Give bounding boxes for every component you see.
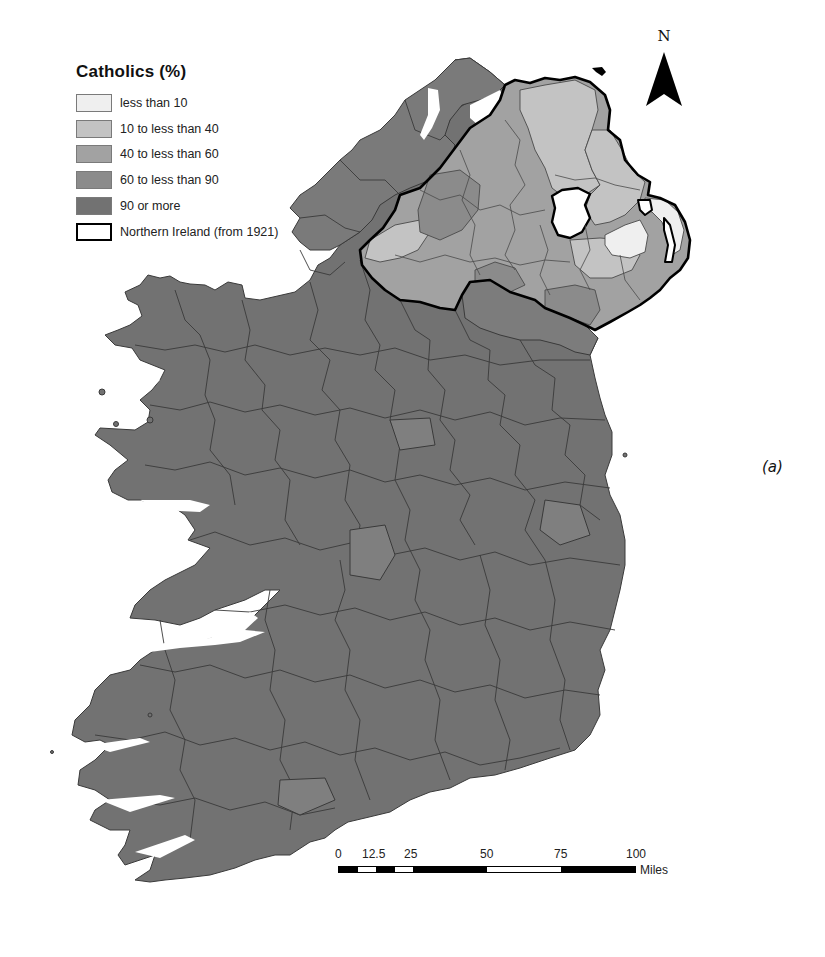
north-arrow-icon xyxy=(644,50,684,110)
legend-title: Catholics (%) xyxy=(76,62,296,82)
legend-label: 60 to less than 90 xyxy=(120,173,219,187)
island xyxy=(114,422,119,427)
legend-label: 90 or more xyxy=(120,199,180,213)
island xyxy=(51,751,54,754)
north-arrow: N xyxy=(644,28,684,114)
legend-item-less-than-10: less than 10 xyxy=(76,90,296,116)
scale-tick-12-5: 12.5 xyxy=(362,847,385,861)
scale-tick-75: 75 xyxy=(554,847,567,861)
rathlin-island xyxy=(592,67,606,76)
scale-tick-50: 50 xyxy=(480,847,493,861)
legend-label: 10 to less than 40 xyxy=(120,122,219,136)
island xyxy=(623,453,627,457)
legend-swatch xyxy=(76,120,112,138)
legend-item-60-to-90: 60 to less than 90 xyxy=(76,167,296,193)
legend-item-40-to-60: 40 to less than 60 xyxy=(76,142,296,168)
legend-swatch xyxy=(76,197,112,215)
scale-bar-track xyxy=(338,866,636,873)
legend-swatch-outline xyxy=(76,223,112,241)
legend-item-90-or-more: 90 or more xyxy=(76,193,296,219)
legend-swatch xyxy=(76,171,112,189)
island xyxy=(99,389,105,395)
scale-unit: Miles xyxy=(640,863,668,877)
panel-label-text: (a) xyxy=(762,458,783,476)
panel-label: (a) xyxy=(762,458,783,476)
island xyxy=(148,713,152,717)
clew-bay xyxy=(105,375,160,390)
map-legend: Catholics (%) less than 10 10 to less th… xyxy=(76,62,296,245)
legend-item-northern-ireland: Northern Ireland (from 1921) xyxy=(76,219,296,245)
scale-tick-100: 100 xyxy=(626,847,646,861)
island xyxy=(147,417,153,423)
legend-label: Northern Ireland (from 1921) xyxy=(120,225,278,239)
legend-label: 40 to less than 60 xyxy=(120,147,219,161)
scale-tick-0: 0 xyxy=(335,847,342,861)
legend-label: less than 10 xyxy=(120,96,187,110)
legend-swatch xyxy=(76,94,112,112)
north-label: N xyxy=(644,28,684,44)
legend-item-10-to-40: 10 to less than 40 xyxy=(76,116,296,142)
scale-tick-25: 25 xyxy=(404,847,417,861)
legend-swatch xyxy=(76,145,112,163)
